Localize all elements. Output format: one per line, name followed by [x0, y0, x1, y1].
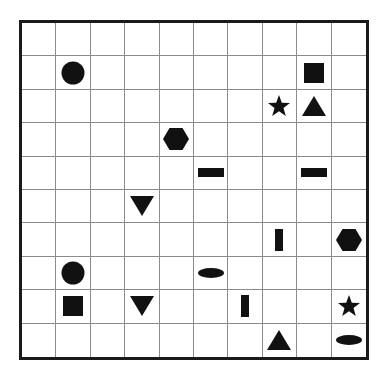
board-cell[interactable]	[56, 324, 90, 357]
board-cell[interactable]	[263, 123, 297, 156]
board-cell[interactable]	[22, 123, 56, 156]
board-cell[interactable]	[125, 90, 159, 123]
board-cell[interactable]	[297, 257, 331, 290]
board-cell[interactable]	[194, 56, 228, 89]
board-cell[interactable]	[56, 290, 90, 323]
board-cell[interactable]	[228, 190, 262, 223]
board-cell[interactable]	[160, 290, 194, 323]
board-cell[interactable]	[125, 223, 159, 256]
board-cell[interactable]	[332, 223, 366, 256]
board-cell[interactable]	[160, 157, 194, 190]
board-cell[interactable]	[228, 324, 262, 357]
board-cell[interactable]	[194, 23, 228, 56]
board-cell[interactable]	[91, 56, 125, 89]
board-cell[interactable]	[56, 56, 90, 89]
board-cell[interactable]	[91, 223, 125, 256]
board-cell[interactable]	[228, 223, 262, 256]
board-cell[interactable]	[22, 157, 56, 190]
board-cell[interactable]	[228, 257, 262, 290]
board-cell[interactable]	[263, 56, 297, 89]
board-cell[interactable]	[297, 90, 331, 123]
board-cell[interactable]	[91, 324, 125, 357]
board-cell[interactable]	[228, 90, 262, 123]
board-cell[interactable]	[297, 56, 331, 89]
board-cell[interactable]	[332, 290, 366, 323]
board-cell[interactable]	[125, 324, 159, 357]
board-cell[interactable]	[228, 56, 262, 89]
board-cell[interactable]	[22, 257, 56, 290]
board-cell[interactable]	[125, 157, 159, 190]
board-cell[interactable]	[194, 223, 228, 256]
board-cell[interactable]	[160, 23, 194, 56]
board-cell[interactable]	[125, 257, 159, 290]
board-cell[interactable]	[263, 324, 297, 357]
board-cell[interactable]	[56, 223, 90, 256]
board-cell[interactable]	[263, 157, 297, 190]
board-cell[interactable]	[263, 223, 297, 256]
board-cell[interactable]	[228, 290, 262, 323]
board-cell[interactable]	[160, 90, 194, 123]
board-cell[interactable]	[332, 190, 366, 223]
board-cell[interactable]	[297, 23, 331, 56]
board-cell[interactable]	[228, 123, 262, 156]
board-cell[interactable]	[56, 23, 90, 56]
board-cell[interactable]	[22, 56, 56, 89]
board-cell[interactable]	[194, 257, 228, 290]
board-cell[interactable]	[91, 23, 125, 56]
board-cell[interactable]	[263, 257, 297, 290]
board-cell[interactable]	[228, 157, 262, 190]
board-cell[interactable]	[332, 257, 366, 290]
board-cell[interactable]	[22, 90, 56, 123]
board-cell[interactable]	[22, 290, 56, 323]
board-cell[interactable]	[332, 157, 366, 190]
board-cell[interactable]	[125, 56, 159, 89]
board-cell[interactable]	[194, 290, 228, 323]
board-cell[interactable]	[297, 223, 331, 256]
board-cell[interactable]	[297, 324, 331, 357]
board-cell[interactable]	[297, 190, 331, 223]
board-cell[interactable]	[332, 324, 366, 357]
board-cell[interactable]	[194, 157, 228, 190]
board-cell[interactable]	[263, 190, 297, 223]
board-cell[interactable]	[263, 90, 297, 123]
board-cell[interactable]	[160, 223, 194, 256]
board-cell[interactable]	[125, 290, 159, 323]
board-cell[interactable]	[160, 123, 194, 156]
board-cell[interactable]	[297, 290, 331, 323]
board-cell[interactable]	[160, 324, 194, 357]
board-cell[interactable]	[56, 90, 90, 123]
board-cell[interactable]	[22, 190, 56, 223]
board-cell[interactable]	[297, 123, 331, 156]
board-cell[interactable]	[194, 123, 228, 156]
board-cell[interactable]	[332, 23, 366, 56]
board-cell[interactable]	[332, 123, 366, 156]
board-cell[interactable]	[263, 23, 297, 56]
board-cell[interactable]	[228, 23, 262, 56]
board-cell[interactable]	[91, 257, 125, 290]
board-cell[interactable]	[22, 223, 56, 256]
board-cell[interactable]	[91, 290, 125, 323]
board-cell[interactable]	[125, 123, 159, 156]
board-cell[interactable]	[56, 157, 90, 190]
board-cell[interactable]	[22, 23, 56, 56]
board-cell[interactable]	[297, 157, 331, 190]
board-cell[interactable]	[125, 190, 159, 223]
board-cell[interactable]	[91, 157, 125, 190]
board-cell[interactable]	[194, 324, 228, 357]
board-cell[interactable]	[160, 190, 194, 223]
board-cell[interactable]	[56, 123, 90, 156]
board-cell[interactable]	[332, 90, 366, 123]
board-cell[interactable]	[160, 56, 194, 89]
board-cell[interactable]	[332, 56, 366, 89]
board-cell[interactable]	[125, 23, 159, 56]
board-cell[interactable]	[22, 324, 56, 357]
board-cell[interactable]	[160, 257, 194, 290]
board-cell[interactable]	[91, 123, 125, 156]
board-cell[interactable]	[56, 257, 90, 290]
board-cell[interactable]	[56, 190, 90, 223]
board-cell[interactable]	[91, 90, 125, 123]
board-cell[interactable]	[91, 190, 125, 223]
board-cell[interactable]	[263, 290, 297, 323]
board-cell[interactable]	[194, 90, 228, 123]
board-cell[interactable]	[194, 190, 228, 223]
